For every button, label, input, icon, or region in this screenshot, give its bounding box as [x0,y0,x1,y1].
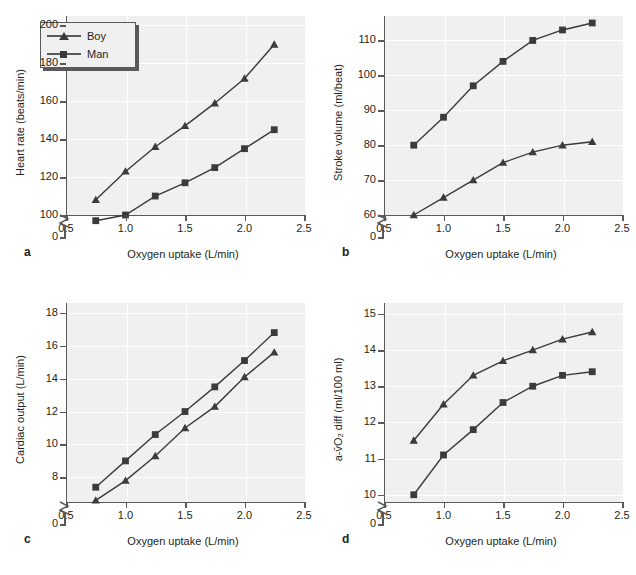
x-axis-tick-label: 1.0 [424,222,464,234]
data-point-marker-man [440,452,447,459]
y-axis-break-icon [377,213,393,230]
x-axis-tick [503,502,505,508]
data-point-marker-man [92,217,99,224]
x-axis-tick [245,215,247,221]
y-axis-tick-label: 140 [22,132,58,144]
data-point-marker-man [470,82,477,89]
y-axis-tick-label: 90 [340,103,376,115]
y-axis-tick-label: 8 [22,470,58,482]
data-point-marker-man [152,431,159,438]
y-axis-tick-label: 60 [340,208,376,220]
data-point-marker-man [410,491,417,498]
y-axis-tick [378,145,384,147]
gridline-vertical [623,16,624,215]
x-axis-tick-label: 1.5 [165,509,205,521]
y-axis-tick [378,350,384,352]
y-axis-tick [60,177,66,179]
series-line-man [414,23,593,145]
y-axis-break-icon [377,500,393,517]
x-axis-tick-label: 2.0 [543,222,583,234]
y-axis-tick-label: 160 [22,94,58,106]
y-axis-tick-label: 100 [22,208,58,220]
y-axis-tick-label: 70 [340,173,376,185]
legend-label-boy: Boy [87,30,106,42]
x-axis-tick-label: 2.0 [543,509,583,521]
y-axis-tick-label: 100 [340,68,376,80]
y-axis-tick-label: 0 [22,517,58,529]
panel-a-letter: a [24,245,31,259]
y-axis-tick-label: 180 [22,56,58,68]
x-axis-tick-label: 1.0 [424,509,464,521]
y-axis-tick-label: 200 [22,18,58,30]
x-axis-tick [622,502,624,508]
y-axis-tick [378,75,384,77]
y-axis-tick [60,379,66,381]
x-axis-tick-label: 1.0 [106,222,146,234]
data-point-marker-man [500,58,507,65]
panel-b-y-axis-label: Stroke volume (ml/beat) [332,15,348,230]
gridline-vertical [305,16,306,215]
y-axis-tick [378,180,384,182]
data-point-marker-man [182,179,189,186]
data-point-marker-man [211,164,218,171]
data-point-marker-boy [469,176,477,183]
y-axis-tick-label: 13 [340,379,376,391]
x-axis-tick-label: 1.5 [165,222,205,234]
panel-d: a-v̄O₂ diff (ml/100 ml) Oxygen uptake (L… [318,287,636,575]
figure-four-panel-exercise-physiology: Heart rate (beats/min) Boy Man Oxygen up… [0,0,636,575]
data-point-marker-man [271,329,278,336]
panel-d-letter: d [342,532,349,546]
y-axis-break-icon [59,213,75,230]
data-point-marker-boy [439,193,447,200]
data-point-marker-boy [588,137,596,144]
y-axis-tick [378,314,384,316]
y-axis-tick-label: 14 [22,372,58,384]
data-point-marker-man [182,408,189,415]
legend-marker-triangle-icon [47,30,81,42]
x-axis-tick-label: 1.5 [483,509,523,521]
data-point-marker-man [211,383,218,390]
x-axis-tick [304,502,306,508]
y-axis-tick-label: 0 [22,230,58,242]
data-point-marker-boy [588,328,596,335]
panel-a-x-axis-label: Oxygen uptake (L/min) [58,248,308,260]
y-axis-tick-label: 0 [340,230,376,242]
y-axis-tick [60,477,66,479]
panel-b-x-axis-label: Oxygen uptake (L/min) [376,248,626,260]
panel-c-series-layer [66,303,304,502]
y-axis-tick [60,346,66,348]
y-axis-tick [60,139,66,141]
x-axis-tick [304,215,306,221]
data-point-marker-man [440,114,447,121]
data-point-marker-man [529,383,536,390]
data-point-marker-man [559,372,566,379]
data-point-marker-man [589,368,596,375]
y-axis-tick-label: 10 [340,488,376,500]
data-point-marker-boy [92,496,100,503]
x-axis-tick [444,215,446,221]
data-point-marker-man [500,399,507,406]
y-axis-tick [60,444,66,446]
panel-d-y-axis-label: a-v̄O₂ diff (ml/100 ml) [332,302,348,517]
gridline-vertical [623,303,624,502]
x-axis-tick-label: 1.5 [483,222,523,234]
x-axis-tick [503,215,505,221]
data-point-marker-man [589,20,596,27]
y-axis-tick-label: 15 [340,307,376,319]
data-point-marker-man [241,145,248,152]
panel-c-letter: c [24,532,31,546]
data-point-marker-boy [410,211,418,218]
x-axis-tick-label: 2.5 [602,509,636,521]
y-axis-tick [378,459,384,461]
y-axis-tick-label: 0 [340,517,376,529]
x-axis-tick [126,502,128,508]
data-point-marker-man [271,126,278,133]
x-axis-tick [126,215,128,221]
y-axis-tick [378,386,384,388]
panel-a-y-axis-label: Heart rate (beats/min) [14,15,30,230]
legend-label-man: Man [87,48,108,60]
y-axis-tick-label: 120 [22,170,58,182]
data-point-marker-boy [270,348,278,355]
series-line-man [414,372,593,495]
y-axis-tick [60,25,66,27]
